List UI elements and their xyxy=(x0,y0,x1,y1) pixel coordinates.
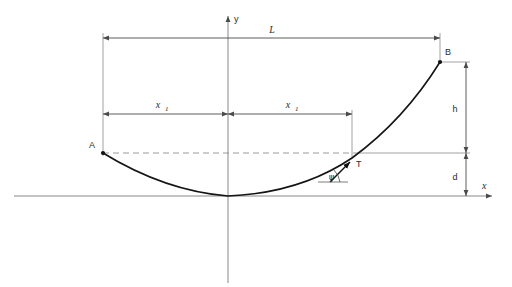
point-marker-A xyxy=(101,151,105,155)
dimension-height-h: h xyxy=(452,62,466,153)
angle-label-psi: ψ xyxy=(329,173,334,182)
point-label-A: A xyxy=(89,140,95,150)
point-label-T: T xyxy=(356,159,362,169)
figure-canvas: y x L x 1 x 1 h xyxy=(0,0,512,287)
extension-line-group xyxy=(103,33,470,158)
cable-geometry-diagram: y x L x 1 x 1 h xyxy=(0,0,512,287)
x-axis-label: x xyxy=(481,180,487,191)
dimension-label-x1-left: x xyxy=(155,99,161,110)
dimension-half-span-left: x 1 xyxy=(103,99,228,114)
dimension-label-d: d xyxy=(452,172,457,182)
dimension-subscript-x1-right: 1 xyxy=(295,105,299,113)
axis-group: y x xyxy=(14,14,492,283)
cable-path xyxy=(103,62,440,196)
point-marker-B xyxy=(438,60,442,64)
dimension-sag-d: d xyxy=(452,153,466,196)
dimension-label-L: L xyxy=(268,24,275,35)
angle-arc-icon xyxy=(334,170,340,182)
point-label-B: B xyxy=(445,47,451,57)
dimension-half-span-right: x 1 xyxy=(228,99,352,114)
angle-psi-group: ψ xyxy=(318,170,348,182)
y-axis-label: y xyxy=(234,14,239,24)
parabolic-cable-curve xyxy=(103,62,440,196)
point-marker-group: A B T xyxy=(89,47,451,169)
dimension-span-L: L xyxy=(103,24,440,38)
dimension-subscript-x1-left: 1 xyxy=(165,105,169,113)
dimension-label-h: h xyxy=(452,104,457,114)
dimension-label-x1-right: x xyxy=(285,99,291,110)
